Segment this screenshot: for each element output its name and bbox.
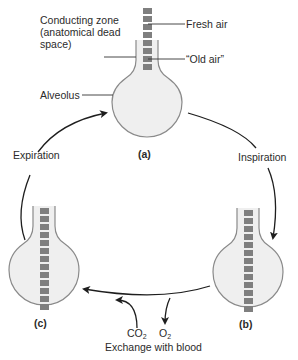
- expiration-label: Expiration: [13, 149, 60, 161]
- fresh-air-label: Fresh air: [186, 18, 227, 30]
- respiration-cycle-diagram: [0, 0, 298, 360]
- inspiration-label: Inspiration: [238, 151, 286, 163]
- air-squares-a: [143, 8, 152, 70]
- panel-c-label: (c): [34, 317, 47, 329]
- panel-a-label: (a): [138, 148, 151, 160]
- co2-label: CO2: [127, 327, 147, 339]
- o2-label: O2: [159, 327, 171, 339]
- exchange-with-blood-label: Exchange with blood: [105, 341, 202, 353]
- exchange-arrow: [84, 286, 210, 328]
- old-air-label: “Old air”: [186, 53, 224, 65]
- panel-b-label: (b): [239, 318, 252, 330]
- conducting-zone-label: Conducting zone (anatomical dead space): [40, 14, 130, 50]
- alveolus-b: [213, 208, 283, 312]
- alveolus-label: Alveolus: [40, 89, 80, 101]
- alveolus-c: [9, 206, 79, 310]
- inspiration-arrow: [188, 113, 276, 238]
